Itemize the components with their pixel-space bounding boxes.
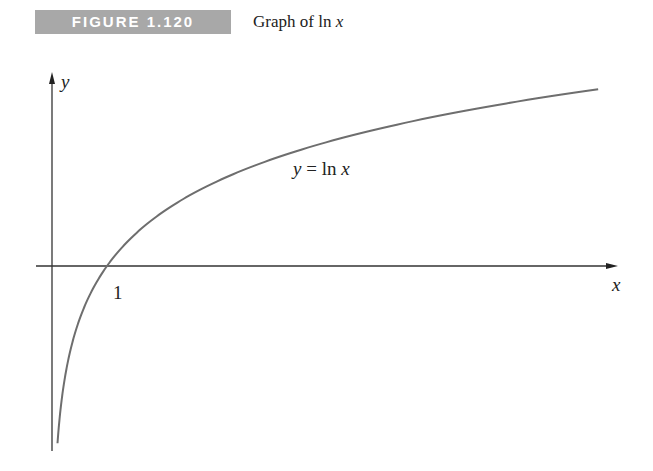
annotation-x: x	[340, 158, 350, 179]
annotation-y: y	[291, 158, 302, 179]
curve-annotation: y = ln x	[291, 158, 350, 179]
y-axis-label: y	[59, 71, 70, 92]
annotation-eq: = ln	[301, 158, 341, 179]
plot-area: y x 1 y = ln x	[0, 0, 653, 471]
x-axis-arrow-icon	[606, 263, 618, 269]
x-axis-label: x	[611, 274, 621, 295]
y-axis-arrow-icon	[49, 72, 55, 84]
tick-label-1: 1	[113, 282, 123, 303]
